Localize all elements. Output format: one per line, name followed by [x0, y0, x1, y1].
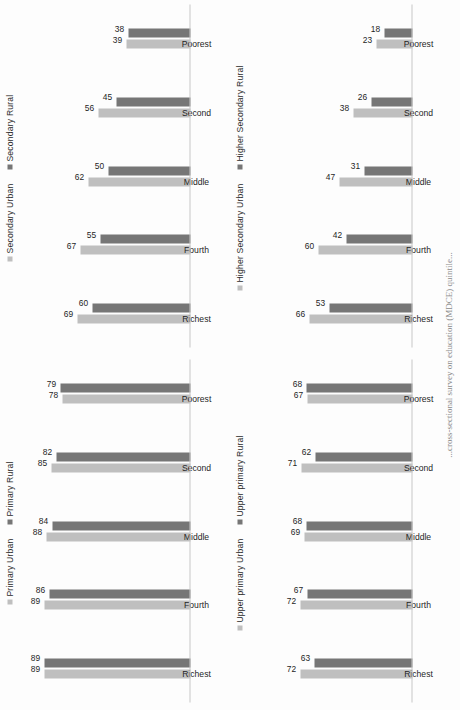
page-caption: ...cross-sectional survey on education (… [440, 0, 458, 710]
bar: 38 [128, 28, 190, 37]
bar-value-label: 86 [35, 584, 44, 594]
bar-group: 6250Middle [26, 141, 190, 210]
bar-group: 7879Poorest [26, 359, 190, 428]
bar-value-label: 89 [30, 652, 39, 662]
legend-label: Higher Secondary Urban [234, 183, 244, 282]
bar-group: 8989Richest [26, 633, 190, 702]
legend-swatch-icon [7, 164, 12, 169]
category-label: Richest [182, 313, 211, 323]
bar: 88 [46, 532, 190, 541]
bar-value-label: 69 [63, 308, 72, 318]
axis-baseline [411, 359, 412, 702]
legend-label: Primary Urban [4, 538, 14, 596]
bar-group: 6653Richest [256, 278, 412, 347]
bar: 55 [100, 234, 190, 243]
bar: 42 [346, 234, 412, 243]
bar-value-label: 55 [86, 229, 95, 239]
bar-value-label: 39 [112, 34, 121, 44]
bar: 50 [108, 166, 190, 175]
bar-value-label: 38 [114, 23, 123, 33]
bar-value-label: 79 [47, 378, 56, 388]
bar-value-label: 82 [42, 446, 51, 456]
legend-swatch-icon [237, 164, 242, 169]
legend-swatch-icon [237, 519, 242, 524]
legend-swatch-icon [7, 519, 12, 524]
category-label: Poorest [181, 393, 211, 403]
bar-group: 8884Middle [26, 496, 190, 565]
bar-value-label: 88 [32, 526, 41, 536]
bar: 72 [300, 669, 412, 678]
chart-panel-secondary: Secondary UrbanSecondary Rural6960Riches… [0, 0, 230, 355]
category-label: Second [181, 462, 210, 472]
bar-value-label: 47 [325, 171, 334, 181]
bar-value-label: 66 [295, 308, 304, 318]
bar-value-label: 38 [339, 102, 348, 112]
category-label: Richest [404, 668, 433, 678]
chart-legend: Higher Secondary UrbanHigher Secondary R… [234, 0, 244, 355]
category-label: Second [403, 107, 432, 117]
axis-baseline [189, 359, 190, 702]
bar: 68 [306, 383, 412, 392]
bar-value-label: 31 [350, 160, 359, 170]
legend-item: Higher Secondary Urban [234, 183, 244, 290]
plot-area: 7263Richest7267Fourth6968Middle7162Secon… [256, 359, 412, 702]
chart-panel-primary: Primary UrbanPrimary Rural8989Richest898… [0, 355, 230, 710]
bar-group: 8986Fourth [26, 565, 190, 634]
bar: 62 [315, 452, 412, 461]
bar-value-label: 69 [291, 526, 300, 536]
bar: 39 [126, 39, 190, 48]
bar-group: 2318Poorest [256, 4, 412, 73]
bar: 66 [309, 314, 412, 323]
bar-value-label: 89 [30, 663, 39, 673]
legend-item: Secondary Rural [4, 94, 14, 169]
bar-group: 5645Second [26, 73, 190, 142]
chart-legend: Primary UrbanPrimary Rural [4, 355, 14, 710]
bar-groups: 6960Richest6755Fourth6250Middle5645Secon… [26, 4, 190, 347]
bar: 89 [44, 658, 190, 667]
bar-value-label: 72 [286, 663, 295, 673]
category-label: Second [181, 107, 210, 117]
bar-value-label: 89 [30, 595, 39, 605]
bar-group: 6960Richest [26, 278, 190, 347]
chart-panel-higher-secondary: Higher Secondary UrbanHigher Secondary R… [230, 0, 452, 355]
category-label: Poorest [181, 38, 211, 48]
bar-value-label: 18 [370, 23, 379, 33]
bar: 71 [301, 463, 412, 472]
bar-group: 3826Second [256, 73, 412, 142]
bar-value-label: 67 [66, 240, 75, 250]
axis-baseline [189, 4, 190, 347]
legend-item: Secondary Urban [4, 183, 14, 261]
category-label: Richest [404, 313, 433, 323]
chart-panel-upper-primary: Upper primary UrbanUpper primary Rural72… [230, 355, 452, 710]
category-label: Richest [182, 668, 211, 678]
category-label: Fourth [406, 244, 431, 254]
bar: 67 [307, 589, 412, 598]
bar-value-label: 68 [292, 378, 301, 388]
category-label: Middle [405, 176, 430, 186]
legend-label: Secondary Urban [4, 183, 14, 253]
bar: 18 [384, 28, 412, 37]
bar-value-label: 84 [39, 515, 48, 525]
bar-group: 6755Fourth [26, 210, 190, 279]
bar: 78 [62, 394, 190, 403]
plot-area: 6653Richest6042Fourth4731Middle3826Secon… [256, 4, 412, 347]
bar-value-label: 23 [362, 34, 371, 44]
bar: 72 [300, 600, 412, 609]
bar-value-label: 53 [316, 297, 325, 307]
legend-item: Primary Urban [4, 538, 14, 604]
category-label: Fourth [184, 244, 209, 254]
bar-groups: 8989Richest8986Fourth8884Middle8582Secon… [26, 359, 190, 702]
bar-value-label: 60 [78, 297, 87, 307]
bar: 84 [52, 521, 190, 530]
bar: 26 [371, 97, 412, 106]
bar: 53 [329, 303, 412, 312]
legend-label: Upper primary Urban [234, 538, 244, 622]
legend-label: Primary Rural [4, 461, 14, 516]
bar: 60 [318, 245, 412, 254]
chart-grid: Secondary UrbanSecondary Rural6960Riches… [0, 0, 460, 710]
bar-group: 6968Middle [256, 496, 412, 565]
legend-label: Higher Secondary Rural [234, 65, 244, 161]
category-label: Fourth [184, 599, 209, 609]
legend-item: Upper primary Urban [234, 538, 244, 630]
bar: 63 [314, 658, 412, 667]
